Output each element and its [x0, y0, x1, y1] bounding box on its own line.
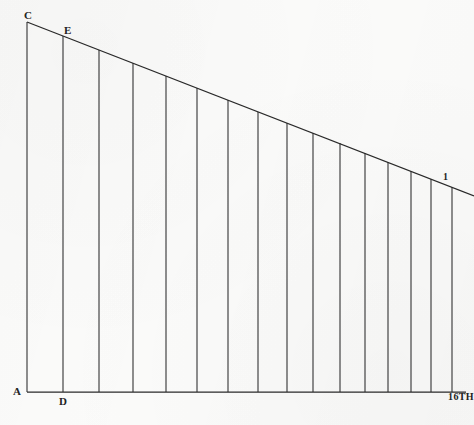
label-bottom-right-16th: 16TH — [448, 392, 474, 402]
label-vertex-e: E — [64, 25, 72, 36]
hypotenuse-segment-C — [27, 22, 474, 196]
label-tick-mark: 1 — [443, 172, 449, 182]
figure-canvas: C E A D 1 16TH — [0, 0, 474, 425]
label-apex-c: C — [24, 10, 32, 21]
ordinate-lines-group — [27, 22, 452, 392]
label-foot-d: D — [59, 396, 67, 407]
label-origin-a: A — [13, 386, 21, 397]
triangle-diagram — [0, 0, 474, 425]
